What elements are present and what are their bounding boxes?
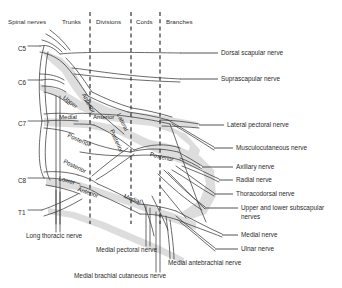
spinal-root-label-c5: C5 (18, 45, 26, 52)
label-text: Radial nerve (236, 176, 272, 185)
label-suprascapular-nerve: Suprascapular nerve (221, 75, 280, 84)
label-medial-antebrachial-nerve: Medial antebrachial nerve (168, 259, 241, 266)
label-long-thoracic-nerve: Long thoracic nerve (26, 232, 82, 239)
label-text: Axillary nerve (236, 163, 274, 172)
label-upper-lower-subscapular-nerves: Upper and lower subscapularnerves (241, 204, 324, 221)
inline-label-anterior-3: Anterior (93, 113, 114, 120)
label-text: Suprascapular nerve (221, 75, 280, 84)
label-thoracodorsal-nerve: Thoracodorsal nerve (236, 190, 295, 199)
label-text: Musculocutaneous nerve (236, 144, 307, 153)
label-axillary-nerve: Axillary nerve (236, 163, 274, 172)
column-header-spinal-nerves: Spinal nerves (8, 18, 46, 25)
spinal-root-label-c7: C7 (18, 120, 26, 127)
label-lateral-pectoral-nerve: Lateral pectoral nerve (227, 121, 289, 130)
label-radial-nerve: Radial nerve (236, 176, 272, 185)
label-text-line2: nerves (241, 213, 324, 222)
inline-label-medial-2: Medial (59, 113, 77, 120)
spinal-root-label-c8: C8 (18, 177, 26, 184)
label-text: Lateral pectoral nerve (227, 121, 289, 130)
label-text: Dorsal scapular nerve (221, 49, 283, 58)
suprascapular-branch (72, 68, 180, 79)
brachial-plexus-figure: Spinal nervesTrunksDivisionsCordsBranche… (0, 0, 342, 288)
column-header-cords: Cords (136, 18, 153, 25)
column-header-trunks: Trunks (62, 18, 81, 25)
label-musculocutaneous-nerve: Musculocutaneous nerve (236, 144, 307, 153)
label-text: Medial nerve (241, 231, 278, 240)
label-medial-brachial-cutaneous-nerve: Medial brachial cutaneous nerve (74, 272, 166, 279)
spinal-root-label-c6: C6 (18, 79, 26, 86)
label-text: Ulnar nerve (241, 245, 274, 254)
subscapular-branch-2 (168, 172, 205, 209)
label-medial-nerve: Medial nerve (241, 231, 278, 240)
column-header-divisions: Divisions (96, 18, 121, 25)
label-text: Upper and lower subscapular (241, 204, 324, 213)
label-medial-pectoral-nerve: Medial pectoral nerve (96, 246, 157, 253)
dorsal-scapular-branch (60, 52, 180, 54)
label-text: Thoracodorsal nerve (236, 190, 295, 199)
label-dorsal-scapular-nerve: Dorsal scapular nerve (221, 49, 283, 58)
label-ulnar-nerve: Ulnar nerve (241, 245, 274, 254)
spinal-root-label-t1: T1 (18, 209, 25, 216)
column-header-branches: Branches (166, 18, 193, 25)
